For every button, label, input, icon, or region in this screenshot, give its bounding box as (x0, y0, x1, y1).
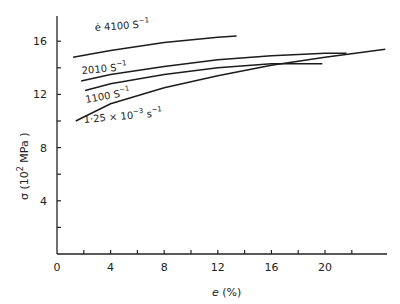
x-tick-label: 20 (318, 261, 332, 274)
series-label-4: 1·25 × 10−3 s−1 (83, 105, 163, 125)
curve-series-1 (73, 36, 236, 57)
x-tick-label: 12 (211, 261, 225, 274)
series-label-3: 1100 S−1 (84, 84, 131, 105)
curves (73, 36, 385, 121)
x-axis-title: e (%) (212, 286, 241, 299)
y-tick-label: 8 (40, 142, 47, 155)
x-tick-label: 16 (264, 261, 278, 274)
y-tick-label: 4 (40, 195, 47, 208)
series-labels: ė 4100 S−12010 S−11100 S−11·25 × 10−3 s−… (81, 16, 163, 125)
x-tick-label: 0 (54, 261, 61, 274)
y-tick-label: 16 (33, 35, 47, 48)
x-tick-label: 4 (107, 261, 114, 274)
y-axis-title: σ (102 MPa ) (16, 132, 31, 200)
stress-strain-chart: 048121620 481216 ė 4100 S−12010 S−11100 … (0, 0, 400, 304)
series-label-1: ė 4100 S−1 (94, 16, 149, 33)
x-tick-label: 8 (161, 261, 168, 274)
y-tick-label: 12 (33, 88, 47, 101)
